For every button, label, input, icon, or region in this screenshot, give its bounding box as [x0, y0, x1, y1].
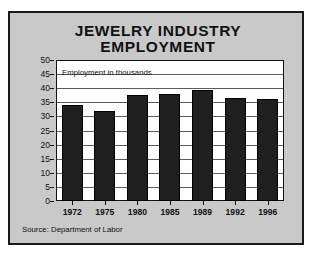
y-tick-mark-30	[50, 116, 54, 117]
x-tick-mark-1985	[170, 201, 171, 205]
y-tick-label-20: 20	[26, 141, 50, 149]
y-tick-label-35: 35	[26, 98, 50, 106]
bar-1989	[192, 90, 213, 201]
x-tick-label-1972: 1972	[63, 207, 82, 217]
bar-1972	[62, 105, 83, 201]
y-tick-label-45: 45	[26, 70, 50, 78]
bar-slot	[154, 60, 187, 201]
chart-title-line-2: EMPLOYMENT	[10, 39, 306, 55]
y-tick-mark-10	[50, 173, 54, 174]
y-tick-mark-5	[50, 187, 54, 188]
y-tick-label-5: 5	[26, 183, 50, 191]
x-tick-mark-1980	[137, 201, 138, 205]
x-tick-mark-1992	[235, 201, 236, 205]
x-axis: 1972197519801985198919921996	[56, 201, 284, 223]
x-tick-label-1989: 1989	[193, 207, 212, 217]
x-tick-mark-1989	[203, 201, 204, 205]
bar-series	[56, 60, 284, 201]
bar-slot	[121, 60, 154, 201]
bar-slot	[251, 60, 284, 201]
x-tick-mark-1996	[268, 201, 269, 205]
y-tick-label-50: 50	[26, 56, 50, 64]
y-tick-mark-0	[50, 201, 54, 202]
x-tick-label-1980: 1980	[128, 207, 147, 217]
y-tick-label-15: 15	[26, 155, 50, 163]
chart-figure: JEWELRY INDUSTRY EMPLOYMENT 504540353025…	[8, 11, 304, 245]
y-tick-mark-25	[50, 131, 54, 132]
x-tick-mark-1975	[105, 201, 106, 205]
chart-title: JEWELRY INDUSTRY EMPLOYMENT	[10, 23, 306, 55]
y-tick-mark-20	[50, 145, 54, 146]
bar-slot	[56, 60, 89, 201]
x-tick-label-1985: 1985	[160, 207, 179, 217]
y-tick-mark-50	[50, 60, 54, 61]
bar-slot	[219, 60, 252, 201]
y-tick-mark-40	[50, 88, 54, 89]
x-tick-mark-1972	[72, 201, 73, 205]
x-tick-label-1996: 1996	[258, 207, 277, 217]
x-tick-label-1992: 1992	[226, 207, 245, 217]
y-axis: 50454035302520151050	[24, 54, 54, 206]
bar-slot	[186, 60, 219, 201]
bar-1985	[159, 94, 180, 201]
bar-1996	[257, 99, 278, 201]
chart-title-line-1: JEWELRY INDUSTRY	[75, 22, 242, 39]
y-tick-label-40: 40	[26, 84, 50, 92]
y-tick-mark-35	[50, 102, 54, 103]
y-tick-label-30: 30	[26, 112, 50, 120]
y-tick-label-25: 25	[26, 127, 50, 135]
y-tick-mark-45	[50, 74, 54, 75]
bar-1992	[225, 98, 246, 201]
y-tick-mark-15	[50, 159, 54, 160]
bar-slot	[89, 60, 122, 201]
y-tick-label-0: 0	[26, 197, 50, 205]
x-tick-label-1975: 1975	[95, 207, 114, 217]
source-note: Source: Department of Labor	[22, 225, 123, 234]
bar-1975	[94, 111, 115, 201]
bar-1980	[127, 95, 148, 201]
y-tick-label-10: 10	[26, 169, 50, 177]
